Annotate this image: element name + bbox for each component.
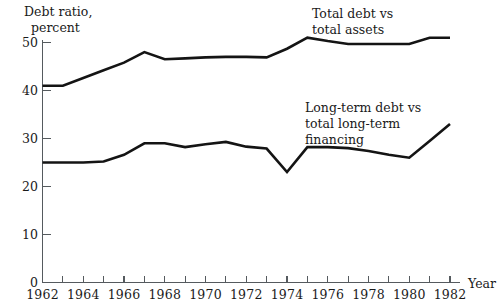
ytick-label-40: 40 xyxy=(22,83,38,98)
debt-ratio-line-chart: 50 40 30 20 10 0 19621964196619681970197… xyxy=(0,0,501,308)
y-axis-tick-labels: 50 40 30 20 10 0 xyxy=(22,35,38,290)
y-axis-title: Debt ratio, percent xyxy=(24,4,92,35)
x-axis-title: Year xyxy=(467,276,496,291)
xtick-label-1980: 1980 xyxy=(393,287,426,302)
xtick-label-1970: 1970 xyxy=(189,287,222,302)
y-axis-title-line2: percent xyxy=(31,20,80,35)
xtick-label-1982: 1982 xyxy=(434,287,467,302)
series-1-annotation: Total debt vs total assets xyxy=(312,6,393,37)
xtick-label-1964: 1964 xyxy=(67,287,100,302)
xtick-label-1976: 1976 xyxy=(311,287,344,302)
series2-label-line1: Long-term debt vs xyxy=(305,100,421,115)
ytick-label-20: 20 xyxy=(22,179,38,194)
series2-label-line3: financing xyxy=(305,132,364,147)
series2-label-line2: total long-term xyxy=(305,116,400,131)
series-line-long-term-debt-vs-total-long-term-financing xyxy=(43,124,451,172)
xtick-label-1966: 1966 xyxy=(108,287,141,302)
xtick-label-1974: 1974 xyxy=(271,287,304,302)
x-axis-ticks xyxy=(43,276,451,283)
chart-canvas: 50 40 30 20 10 0 19621964196619681970197… xyxy=(0,0,501,308)
series1-label-line2: total assets xyxy=(312,22,384,37)
series-2-annotation: Long-term debt vs total long-term financ… xyxy=(305,100,421,147)
series1-label-line1: Total debt vs xyxy=(312,6,393,21)
ytick-label-50: 50 xyxy=(22,35,38,50)
xtick-label-1972: 1972 xyxy=(230,287,263,302)
xtick-label-1962: 1962 xyxy=(26,287,59,302)
xtick-label-1968: 1968 xyxy=(148,287,181,302)
y-axis-title-line1: Debt ratio, xyxy=(24,4,92,19)
xtick-label-1978: 1978 xyxy=(352,287,385,302)
ytick-label-30: 30 xyxy=(22,131,38,146)
ytick-label-10: 10 xyxy=(22,227,38,242)
y-axis-ticks xyxy=(43,43,51,235)
series-line-total-debt-vs-total-assets xyxy=(43,38,451,86)
x-axis-tick-labels: 1962196419661968197019721974197619781980… xyxy=(26,287,466,302)
